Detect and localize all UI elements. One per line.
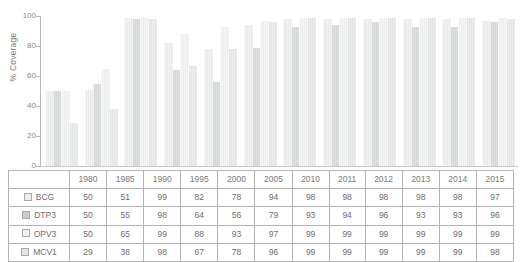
- table-cell: 38: [107, 243, 144, 261]
- y-tick-label: 20: [10, 132, 36, 140]
- table-column-header: 2005: [255, 171, 292, 189]
- y-tick-label: 80: [10, 42, 36, 50]
- table-column-header: 2010: [292, 171, 329, 189]
- table-body: BCG505199827894989898989897DTP3505598645…: [9, 189, 514, 262]
- y-tick-mark: [36, 166, 40, 167]
- table-row-header-mcv1: MCV1: [9, 243, 70, 261]
- table-cell: 50: [70, 207, 107, 225]
- bar-group: [240, 16, 280, 166]
- table-column-header: 2000: [218, 171, 255, 189]
- table-cell: 56: [218, 207, 255, 225]
- y-tick-label: 0: [10, 162, 36, 170]
- bar-group: [439, 16, 479, 166]
- table-column-header: 2013: [402, 171, 439, 189]
- bar-group: [121, 16, 161, 166]
- table-column-header: 2011: [329, 171, 365, 189]
- table-column-header: 2012: [365, 171, 402, 189]
- bar-mcv1-1995: [188, 66, 197, 167]
- bar-mcv1-2000: [228, 49, 237, 166]
- table-column-header: 2015: [476, 171, 513, 189]
- table-cell: 98: [439, 189, 476, 207]
- y-tick-label: 40: [10, 102, 36, 110]
- table-cell: 78: [218, 243, 255, 261]
- table-cell: 98: [402, 189, 439, 207]
- table-cell: 78: [218, 189, 255, 207]
- table-cell: 99: [365, 243, 402, 261]
- table-cell: 67: [181, 243, 218, 261]
- table-cell: 99: [292, 225, 329, 243]
- table-row-header-dtp3: DTP3: [9, 207, 70, 225]
- bcg-swatch: [24, 193, 32, 201]
- table-cell: 65: [107, 225, 144, 243]
- bar-group: [41, 16, 81, 166]
- table-cell: 99: [365, 225, 402, 243]
- y-tick-mark: [36, 46, 40, 47]
- series-label: BCG: [36, 192, 54, 202]
- bar-mcv1-2010: [307, 18, 316, 167]
- table-column-header: 1985: [107, 171, 144, 189]
- table-cell: 99: [402, 243, 439, 261]
- table-cell: 88: [181, 225, 218, 243]
- bar-mcv1-1980: [69, 123, 78, 167]
- table-cell: 99: [402, 225, 439, 243]
- bar-group: [81, 16, 121, 166]
- table-cell: 96: [476, 207, 513, 225]
- series-label: DTP3: [34, 211, 56, 221]
- table-cell: 93: [402, 207, 439, 225]
- dtp3-swatch: [22, 211, 30, 219]
- table-cell: 99: [329, 225, 365, 243]
- bar-group: [359, 16, 399, 166]
- table-cell: 94: [255, 189, 292, 207]
- table-corner-cell: [9, 171, 70, 189]
- table-row: MCV1293898677896999999999998: [9, 243, 514, 261]
- series-label: OPV3: [34, 229, 57, 239]
- y-tick-mark: [36, 16, 40, 17]
- table-cell: 50: [70, 189, 107, 207]
- table-cell: 99: [329, 243, 365, 261]
- series-label: MCV1: [33, 247, 57, 257]
- data-table-wrapper: 1980198519901995200020052010201120122013…: [8, 170, 514, 262]
- table-cell: 93: [439, 207, 476, 225]
- table-cell: 98: [365, 189, 402, 207]
- bar-group: [200, 16, 240, 166]
- bar-mcv1-2012: [387, 18, 396, 167]
- table-column-header: 1990: [144, 171, 181, 189]
- table-cell: 99: [144, 225, 181, 243]
- bar-group: [280, 16, 320, 166]
- bar-groups-container: [41, 16, 518, 166]
- table-cell: 99: [476, 225, 513, 243]
- table-cell: 64: [181, 207, 218, 225]
- y-tick-label: 60: [10, 72, 36, 80]
- bar-group: [399, 16, 439, 166]
- table-cell: 98: [144, 243, 181, 261]
- table-row: DTP3505598645679939496939396: [9, 207, 514, 225]
- opv3-swatch: [22, 229, 30, 237]
- bar-mcv1-2013: [427, 18, 436, 167]
- data-table: 1980198519901995200020052010201120122013…: [8, 170, 514, 262]
- table-cell: 55: [107, 207, 144, 225]
- bar-group: [319, 16, 359, 166]
- bar-mcv1-2015: [506, 19, 515, 166]
- table-cell: 99: [439, 225, 476, 243]
- table-cell: 94: [329, 207, 365, 225]
- bar-chart-plot: % Coverage 100806040200: [0, 0, 522, 172]
- table-cell: 93: [292, 207, 329, 225]
- table-header-row: 1980198519901995200020052010201120122013…: [9, 171, 514, 189]
- table-cell: 98: [476, 243, 513, 261]
- table-header: 1980198519901995200020052010201120122013…: [9, 171, 514, 189]
- table-cell: 99: [292, 243, 329, 261]
- table-cell: 99: [439, 243, 476, 261]
- table-row-header-bcg: BCG: [9, 189, 70, 207]
- table-cell: 97: [255, 225, 292, 243]
- bar-group: [160, 16, 200, 166]
- y-tick-label: 100: [10, 12, 36, 20]
- table-cell: 96: [255, 243, 292, 261]
- y-axis-tick-labels: 100806040200: [8, 0, 36, 172]
- bar-mcv1-2005: [268, 22, 277, 166]
- table-cell: 98: [329, 189, 365, 207]
- table-cell: 29: [70, 243, 107, 261]
- table-cell: 98: [144, 207, 181, 225]
- x-axis-line: [40, 166, 518, 167]
- table-cell: 93: [218, 225, 255, 243]
